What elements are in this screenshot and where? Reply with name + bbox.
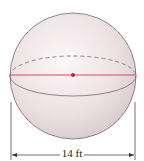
sphere-diagram	[0, 0, 144, 161]
arrow-right-icon	[129, 153, 134, 157]
arrow-left-icon	[12, 153, 17, 157]
center-point	[71, 73, 75, 77]
